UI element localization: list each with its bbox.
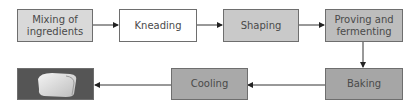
step-mixing-label: Mixing ofingredients (27, 14, 83, 38)
step-shaping-label: Shaping (241, 20, 282, 32)
step-baking: Baking (325, 68, 403, 100)
step-cooling: Cooling (171, 68, 248, 100)
step-mixing: Mixing ofingredients (17, 9, 93, 42)
step-kneading-label: Kneading (135, 20, 182, 32)
step-bread-image (17, 68, 94, 100)
step-baking-label: Baking (347, 78, 381, 90)
step-proving-label: Proving andfermenting (334, 14, 393, 38)
step-shaping: Shaping (223, 9, 299, 42)
bread-loaf-icon (18, 69, 93, 99)
step-proving: Proving andfermenting (325, 9, 403, 42)
step-cooling-label: Cooling (191, 78, 228, 90)
step-kneading: Kneading (119, 9, 197, 42)
